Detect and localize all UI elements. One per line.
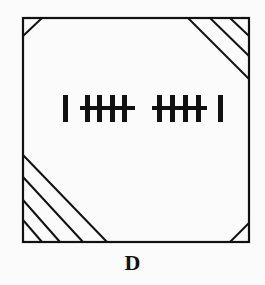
tally-group-2 [152, 95, 207, 122]
tally-single-right [218, 95, 223, 122]
figure-diagram [0, 0, 265, 285]
outer-square [23, 18, 249, 242]
corner-top-left-hatch [23, 18, 42, 36]
option-label: D [0, 250, 265, 276]
corner-bottom-left-hatch [23, 155, 107, 242]
tally-single-left [63, 95, 68, 122]
tally-marks [63, 95, 223, 122]
corner-top-right-hatch [188, 18, 249, 79]
tally-group-1 [80, 95, 135, 122]
corner-bottom-right-hatch [230, 223, 249, 242]
